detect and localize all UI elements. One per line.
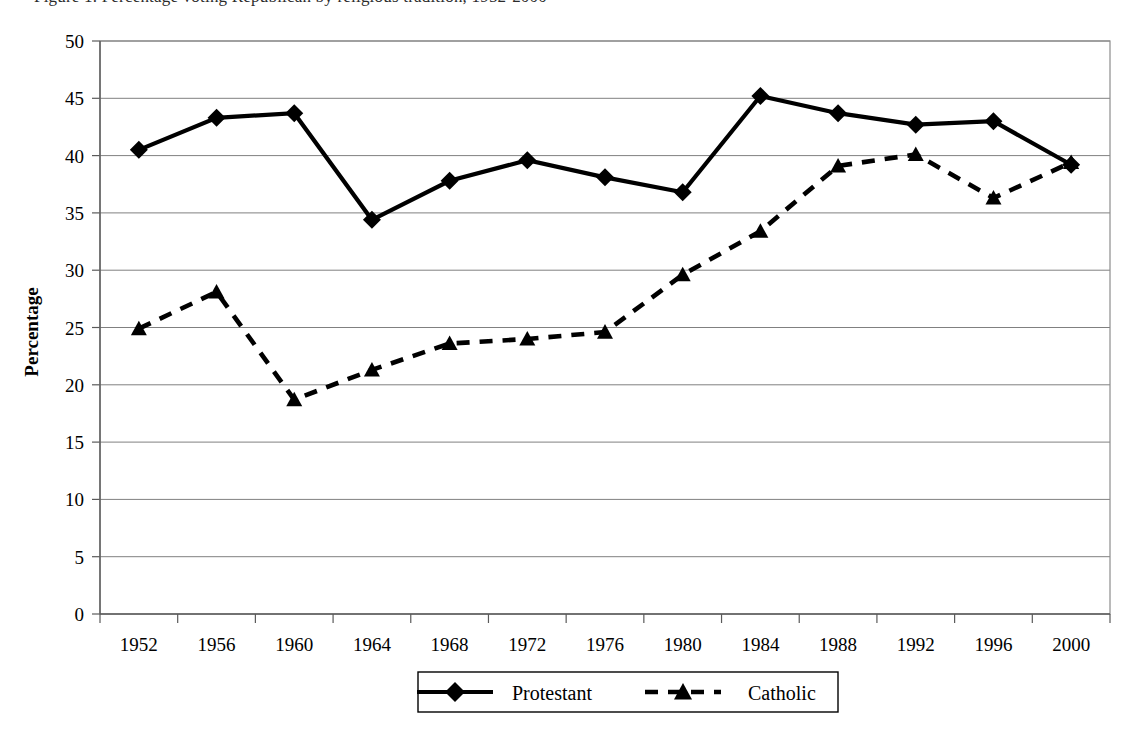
x-tick-label: 1988 — [819, 634, 857, 655]
data-series — [130, 87, 1080, 406]
diamond-marker — [130, 141, 148, 159]
diamond-marker — [984, 112, 1002, 130]
y-axis-title: Percentage — [21, 287, 42, 376]
y-tick-label: 0 — [75, 604, 85, 625]
y-tick-marks — [92, 41, 100, 614]
figure-root: Figure 1. Percentage voting Republican b… — [0, 0, 1142, 742]
diamond-marker — [829, 104, 847, 122]
x-tick-label: 1980 — [664, 634, 702, 655]
y-tick-label: 45 — [65, 88, 84, 109]
x-tick-marks — [100, 614, 1110, 623]
series-protestant — [130, 87, 1080, 229]
y-tick-label: 15 — [65, 432, 84, 453]
x-tick-label: 1956 — [198, 634, 236, 655]
triangle-marker — [442, 336, 458, 351]
diamond-marker — [441, 172, 459, 190]
x-tick-label: 1996 — [974, 634, 1012, 655]
y-tick-label: 25 — [65, 318, 84, 339]
y-tick-label: 20 — [65, 375, 84, 396]
y-tick-label: 35 — [65, 203, 84, 224]
x-tick-label: 1960 — [275, 634, 313, 655]
diamond-marker — [518, 151, 536, 169]
y-tick-label: 40 — [65, 146, 84, 167]
y-tick-label: 10 — [65, 489, 84, 510]
x-tick-label: 1972 — [508, 634, 546, 655]
legend-label: Catholic — [748, 682, 816, 704]
x-tick-label: 1984 — [741, 634, 780, 655]
triangle-marker — [209, 284, 225, 299]
y-tick-label: 50 — [65, 31, 84, 52]
diamond-marker — [208, 109, 226, 127]
chart-legend[interactable]: ProtestantCatholic — [417, 672, 838, 712]
x-tick-label: 1952 — [120, 634, 158, 655]
y-tick-label: 30 — [65, 260, 84, 281]
x-tick-label: 1968 — [431, 634, 469, 655]
diamond-marker — [596, 168, 614, 186]
x-tick-label: 1976 — [586, 634, 624, 655]
x-tick-label: 1992 — [897, 634, 935, 655]
series-line — [139, 154, 1071, 399]
x-tick-label: 1964 — [353, 634, 392, 655]
diamond-marker — [907, 116, 925, 134]
series-line — [139, 96, 1071, 220]
x-axis-tick-labels: 1952195619601964196819721976198019841988… — [120, 634, 1090, 655]
x-tick-label: 2000 — [1052, 634, 1090, 655]
triangle-marker — [752, 223, 768, 238]
legend-label: Protestant — [512, 682, 592, 704]
line-chart: 05101520253035404550 1952195619601964196… — [0, 0, 1142, 742]
gridlines — [100, 41, 1110, 557]
triangle-marker — [675, 267, 691, 282]
y-axis-tick-labels: 05101520253035404550 — [65, 31, 84, 625]
y-tick-label: 5 — [75, 547, 85, 568]
